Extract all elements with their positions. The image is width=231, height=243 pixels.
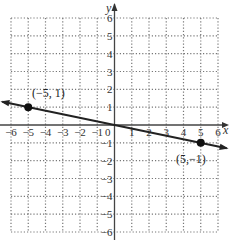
y-tick-label: −3 <box>101 173 113 185</box>
y-tick-label: −1 <box>101 137 113 149</box>
y-tick-label: 5 <box>107 30 113 42</box>
y-tick-label: 2 <box>107 83 113 95</box>
line-arrow-icon <box>0 100 9 106</box>
x-tick-label: 5 <box>198 126 204 138</box>
point-label-b: (5,−1) <box>176 152 206 166</box>
x-tick-label: 6 <box>215 126 221 138</box>
y-tick-label: 3 <box>107 66 113 78</box>
y-axis-label: y <box>105 1 112 15</box>
y-tick-label: 4 <box>107 48 113 60</box>
data-point <box>197 139 205 147</box>
coordinate-plane: −6−5−4−3−2−1123456−6−5−4−3−2−1123456 x y… <box>0 0 231 243</box>
y-tick-label: −5 <box>101 208 113 220</box>
data-point <box>24 103 32 111</box>
y-tick-label: 1 <box>107 101 113 113</box>
y-axis-arrow-icon <box>112 3 118 11</box>
y-tick-label: −4 <box>101 190 113 202</box>
x-tick-label: −6 <box>5 126 17 138</box>
y-tick-label: −6 <box>101 226 113 238</box>
line-arrow-icon <box>219 144 228 150</box>
point-label-a: (−5, 1) <box>32 86 65 100</box>
x-axis-label: x <box>222 123 229 137</box>
x-tick-label: −3 <box>57 126 69 138</box>
axes <box>0 3 229 240</box>
x-tick-label: −5 <box>22 126 34 138</box>
x-tick-label: −2 <box>74 126 86 138</box>
x-tick-label: −4 <box>40 126 52 138</box>
origin-label: 0 <box>105 126 111 138</box>
x-tick-label: 4 <box>181 126 187 138</box>
y-tick-label: −2 <box>101 155 113 167</box>
